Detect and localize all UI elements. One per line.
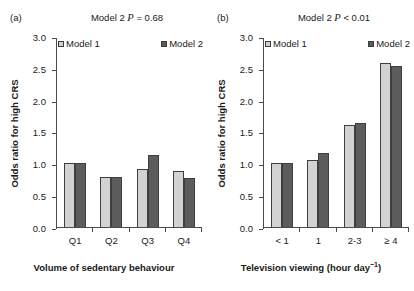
panel-b-bar-model2-ge4 (391, 66, 402, 227)
panel-a-ytick-label-2.5: 2.5 (33, 64, 46, 75)
panel-b-bar-model1-2-3 (344, 125, 355, 227)
panel-a-bar-model2-q3 (148, 155, 159, 227)
panel-a-ytick-label-0.5: 0.5 (33, 191, 46, 202)
panel-b-ytick-3.0: 3.0 (259, 38, 263, 39)
panel-a-x-axis-title-text: Volume of sedentary behaviour (34, 262, 175, 273)
panel-b-bargroup-2-3 (337, 37, 373, 227)
panel-b-ytick-label-2.0: 2.0 (240, 96, 253, 107)
panel-b-ytick-2.5: 2.5 (259, 70, 263, 71)
panel-a-ytick-label-1.5: 1.5 (33, 127, 46, 138)
panel-b-x-axis-title-tail: ) (378, 262, 381, 273)
panel-a-xtick-label-q2: Q2 (93, 229, 129, 246)
panel-a-ytick-label-3.0: 3.0 (33, 32, 46, 43)
panel-b-bar-model2-lt1 (282, 163, 293, 227)
panel-a-plot-area: 3.0 2.5 2.0 1.5 1.0 0.5 0.0 (56, 38, 201, 228)
panel-b-bar-model1-ge4 (380, 63, 391, 227)
panel-b-xtick-labels: < 1 1 2-3 ≥ 4 (264, 229, 409, 246)
panel-b-x-axis-title-superscript: −1 (370, 261, 378, 268)
panel-a-xtick-label-q3: Q3 (130, 229, 166, 246)
panel-b-x-axis-title: Television viewing (hour day−1) (213, 262, 409, 274)
panel-b-bar-model2-1 (318, 153, 329, 227)
panel-b-ytick-label-0.0: 0.0 (240, 223, 253, 234)
panel-b-bar-model1-1 (307, 160, 318, 227)
panel-b-pvalue-annotation: Model 2 P < 0.01 (259, 12, 409, 23)
panel-b-y-axis-title: Odds ratio for high CRS (215, 38, 229, 229)
panel-b-xtick-label-ge4: ≥ 4 (373, 229, 409, 246)
panel-a-bargroup-q3 (130, 37, 166, 227)
panel-b-letter: (b) (217, 12, 229, 23)
panel-a-bar-model2-q4 (184, 178, 195, 227)
panel-b-x-axis-title-text: Television viewing (hour day (241, 262, 370, 273)
panel-a-y-axis-title: Odds ratio for high CRS (8, 38, 22, 229)
panel-a-ytick-1.0: 1.0 (52, 165, 56, 166)
panel-a-bars (57, 37, 202, 227)
panel-b-xtick-label-2-3: 2-3 (337, 229, 373, 246)
panel-b-bars (264, 37, 409, 227)
panel-b-ytick-label-0.5: 0.5 (240, 191, 253, 202)
panel-a-note-suffix: = 0.68 (134, 12, 163, 23)
panel-a-xtick-label-q4: Q4 (166, 229, 202, 246)
panel-b-ytick-label-1.0: 1.0 (240, 159, 253, 170)
panel-b-ytick-0.5: 0.5 (259, 197, 263, 198)
panel-a-ytick-3.0: 3.0 (52, 38, 56, 39)
figure-container: (a) Model 2 P = 0.68 Model 1 Model 2 Odd… (0, 0, 414, 291)
panel-b-plot-area: 3.0 2.5 2.0 1.5 1.0 0.5 0.0 (263, 38, 408, 228)
panel-a-bargroup-q4 (166, 37, 202, 227)
panel-b-bargroup-lt1 (264, 37, 300, 227)
panel-a-bar-model1-q3 (137, 169, 148, 227)
panel-a-bargroup-q2 (93, 37, 129, 227)
panel-a-note-prefix: Model 2 (91, 12, 127, 23)
panel-a-x-axis-title: Volume of sedentary behaviour (6, 262, 202, 274)
panel-b-ytick-label-2.5: 2.5 (240, 64, 253, 75)
panel-a: (a) Model 2 P = 0.68 Model 1 Model 2 Odd… (0, 0, 207, 291)
panel-a-ytick-label-2.0: 2.0 (33, 96, 46, 107)
panel-b-xtick-label-lt1: < 1 (264, 229, 300, 246)
panel-b-bar-model1-lt1 (271, 163, 282, 227)
panel-b-ytick-label-3.0: 3.0 (240, 32, 253, 43)
panel-b-ytick-1.0: 1.0 (259, 165, 263, 166)
panel-b-ytick-0.0: 0.0 (259, 229, 263, 230)
panel-a-ytick-2.0: 2.0 (52, 102, 56, 103)
panel-b-ytick-2.0: 2.0 (259, 102, 263, 103)
panel-a-ytick-label-1.0: 1.0 (33, 159, 46, 170)
panel-a-ytick-2.5: 2.5 (52, 70, 56, 71)
panel-b-note-prefix: Model 2 (298, 12, 334, 23)
panel-b-bargroup-1 (300, 37, 336, 227)
panel-b-note-suffix: < 0.01 (341, 12, 370, 23)
panel-b: (b) Model 2 P < 0.01 Model 1 Model 2 Odd… (207, 0, 414, 291)
panel-b-ytick-1.5: 1.5 (259, 133, 263, 134)
panel-b-bargroup-ge4 (373, 37, 409, 227)
panel-a-xtick-label-q1: Q1 (57, 229, 93, 246)
panel-a-letter: (a) (10, 12, 22, 23)
panel-a-pvalue-annotation: Model 2 P = 0.68 (52, 12, 202, 23)
panel-a-xtick-labels: Q1 Q2 Q3 Q4 (57, 229, 202, 246)
panel-a-bargroup-q1 (57, 37, 93, 227)
panel-a-bar-model2-q2 (111, 177, 122, 227)
panel-a-ytick-label-0.0: 0.0 (33, 223, 46, 234)
panel-b-ytick-label-1.5: 1.5 (240, 127, 253, 138)
panel-a-bar-model1-q1 (64, 163, 75, 227)
panel-a-ytick-0.5: 0.5 (52, 197, 56, 198)
panel-a-bar-model2-q1 (75, 163, 86, 227)
panel-b-bar-model2-2-3 (355, 123, 366, 227)
panel-a-bar-model1-q2 (100, 177, 111, 227)
panel-a-ytick-0.0: 0.0 (52, 229, 56, 230)
panel-a-ytick-1.5: 1.5 (52, 133, 56, 134)
panel-a-bar-model1-q4 (173, 171, 184, 227)
panel-b-xtick-label-1: 1 (300, 229, 336, 246)
